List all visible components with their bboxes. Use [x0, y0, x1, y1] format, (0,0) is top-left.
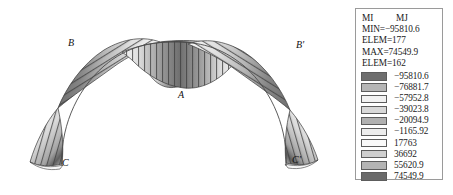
node-label-B: B — [68, 38, 74, 48]
legend-swatch — [361, 128, 387, 136]
moment-diagram-plot: B A B' C C' — [0, 0, 345, 195]
legend-scale-value: −76881.7 — [394, 82, 429, 93]
legend-swatch — [361, 172, 387, 180]
legend-swatch — [361, 161, 387, 169]
legend-header-mi: MI — [362, 13, 396, 24]
legend-scale-item: 17763 — [361, 138, 442, 149]
legend-scale-value: −20094.9 — [394, 115, 429, 126]
legend-scale-item: −20094.9 — [361, 115, 442, 126]
legend-scale-value: 36692 — [394, 149, 417, 160]
legend-min-value: MIN=−95810.6 — [356, 24, 442, 35]
node-label-C-prime: C' — [292, 155, 301, 165]
legend-max-value: MAX=74549.9 — [356, 47, 442, 58]
legend-min-element: ELEM=177 — [356, 35, 442, 46]
legend-scale-item: −76881.7 — [361, 82, 442, 93]
node-label-C: C — [62, 158, 69, 168]
moment-diagram-svg — [0, 0, 345, 195]
legend-header-mj: MJ — [396, 13, 408, 23]
moment-lobe-right-leg — [285, 110, 318, 169]
legend-scale-item: −57952.8 — [361, 93, 442, 104]
legend-scale-value: 17763 — [394, 138, 417, 149]
legend-scale-value: 74549.9 — [394, 171, 424, 182]
legend-swatch — [361, 83, 387, 91]
legend-scale-value: −95810.6 — [394, 71, 429, 82]
legend-scale-value: −39023.8 — [394, 104, 429, 115]
legend-swatch — [361, 150, 387, 158]
legend-swatch — [361, 72, 387, 80]
moment-lobe-left-leg — [30, 108, 63, 170]
legend-header-row: MIMJ — [356, 13, 442, 24]
legend-scale-value: −1165.92 — [394, 126, 428, 137]
legend-scale-item: −95810.6 — [361, 71, 442, 82]
legend-scale-value: −57952.8 — [394, 93, 429, 104]
legend-scale-value: 55620.9 — [394, 160, 424, 171]
node-label-A: A — [178, 90, 184, 100]
legend-scale-item: 55620.9 — [361, 160, 442, 171]
legend-swatch — [361, 106, 387, 114]
legend-swatch — [361, 117, 387, 125]
legend-swatch — [361, 95, 387, 103]
legend-scale-item: 36692 — [361, 149, 442, 160]
legend-scale-item: −1165.92 — [361, 126, 442, 137]
node-label-B-prime: B' — [296, 40, 304, 50]
legend-scale-item: −39023.8 — [361, 104, 442, 115]
legend-swatch — [361, 139, 387, 147]
contour-legend-panel: MIMJ MIN=−95810.6 ELEM=177 MAX=74549.9 E… — [355, 8, 443, 180]
legend-scale-list: −95810.6 −76881.7 −57952.8 −39023.8 −200… — [356, 71, 442, 182]
legend-scale-item: 74549.9 — [361, 171, 442, 182]
legend-max-element: ELEM=162 — [356, 58, 442, 69]
